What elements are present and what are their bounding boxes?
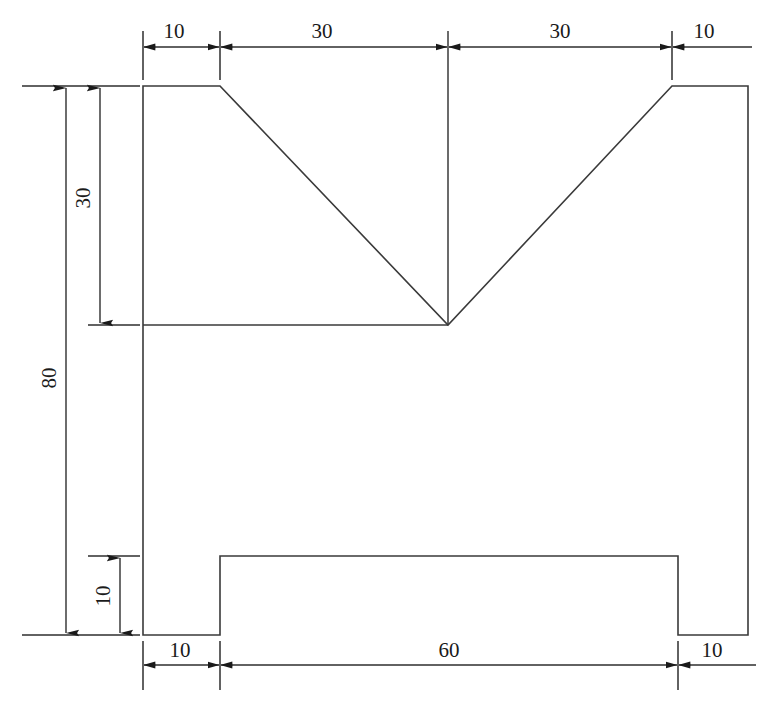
dim-label-bottom-middle-span: 60: [439, 638, 460, 662]
part-outline-group: [143, 86, 748, 635]
dim-label-top-left-flat: 10: [164, 19, 185, 43]
dim-label-bottom-right-foot: 10: [702, 638, 723, 662]
dim-label-upper-height: 30: [71, 188, 95, 209]
dim-label-top-right-flat: 10: [694, 19, 715, 43]
part-outline-path: [143, 86, 748, 635]
bottom-dimension-group: 10 60 10: [143, 638, 756, 690]
dim-label-top-left-slope: 30: [312, 19, 333, 43]
technical-drawing-page: 10 30 30 10 80 30 10: [0, 0, 774, 714]
drawing-canvas: 10 30 30 10 80 30 10: [0, 0, 774, 714]
dim-label-overall-height: 80: [37, 368, 61, 389]
dim-label-bottom-left-foot: 10: [170, 638, 191, 662]
dim-label-foot-height: 10: [91, 586, 115, 607]
left-dimension-group: 80 30 10: [22, 86, 140, 635]
dim-label-top-right-slope: 30: [550, 19, 571, 43]
